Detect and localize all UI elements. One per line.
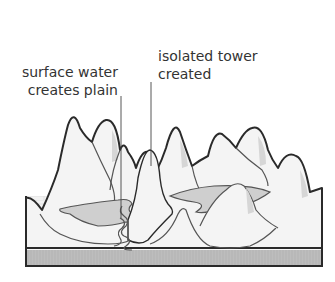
karst-hills <box>26 117 322 250</box>
karst-diagram <box>0 0 335 282</box>
